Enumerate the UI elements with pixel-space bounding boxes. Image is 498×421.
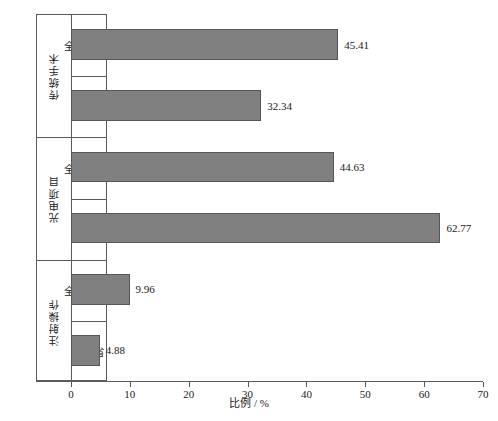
bar-value-label: 9.96 <box>136 283 155 295</box>
bar-value-label: 45.41 <box>344 39 369 51</box>
x-axis: 010203040506070 <box>36 381 483 382</box>
plot-frame <box>71 14 483 381</box>
group-label: 注射操作 <box>47 298 62 346</box>
plot-area: 45.4132.3444.6362.779.964.88 <box>71 14 483 381</box>
bar <box>71 152 334 183</box>
x-tick <box>306 382 307 387</box>
group-cell: 光电项目 <box>37 137 72 260</box>
x-tick <box>365 382 366 387</box>
x-tick <box>248 382 249 387</box>
x-tick <box>483 382 484 387</box>
group-axis-column: 传统手术光电项目注射操作 <box>36 14 71 381</box>
x-tick <box>71 382 72 387</box>
bar <box>71 213 440 244</box>
group-cell: 传统手术 <box>37 15 72 137</box>
x-tick <box>424 382 425 387</box>
bar <box>71 335 100 366</box>
bar-chart: 传统手术光电项目注射操作 全国均值江西省全国均值江西省全国均值江西省 45.41… <box>0 0 498 421</box>
x-tick <box>189 382 190 387</box>
bar-value-label: 4.88 <box>106 344 125 356</box>
bar <box>71 29 338 60</box>
bar-value-label: 44.63 <box>340 161 365 173</box>
x-tick <box>130 382 131 387</box>
bar <box>71 90 261 121</box>
group-label: 传统手术 <box>47 52 62 100</box>
group-cell: 注射操作 <box>37 260 72 383</box>
x-axis-title: 比例 / % <box>0 394 498 410</box>
bar <box>71 274 130 305</box>
bar-value-label: 32.34 <box>267 100 292 112</box>
bar-value-label: 62.77 <box>446 222 471 234</box>
group-label: 光电项目 <box>47 175 62 223</box>
